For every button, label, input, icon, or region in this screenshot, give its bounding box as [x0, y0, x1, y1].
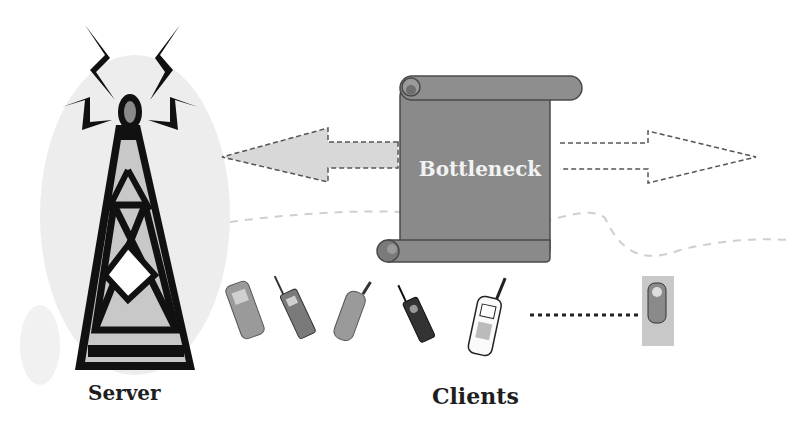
bottleneck-label: Bottleneck	[396, 157, 564, 181]
clients-label: Clients	[432, 383, 519, 409]
mobile-phone-icon	[224, 280, 266, 341]
right-arrow-icon	[560, 131, 756, 183]
mobile-phone-icon	[271, 270, 316, 339]
client-devices	[224, 270, 674, 357]
left-arrow-icon	[222, 128, 398, 182]
mobile-phone-icon	[467, 274, 507, 357]
mobile-phone-icon	[395, 280, 436, 343]
mobile-phone-icon	[642, 276, 674, 346]
diagram-graphics	[0, 0, 791, 438]
mobile-phone-icon	[332, 276, 373, 343]
server-label: Server	[88, 381, 161, 405]
diagram-canvas: Bottleneck Server Clients	[0, 0, 791, 438]
